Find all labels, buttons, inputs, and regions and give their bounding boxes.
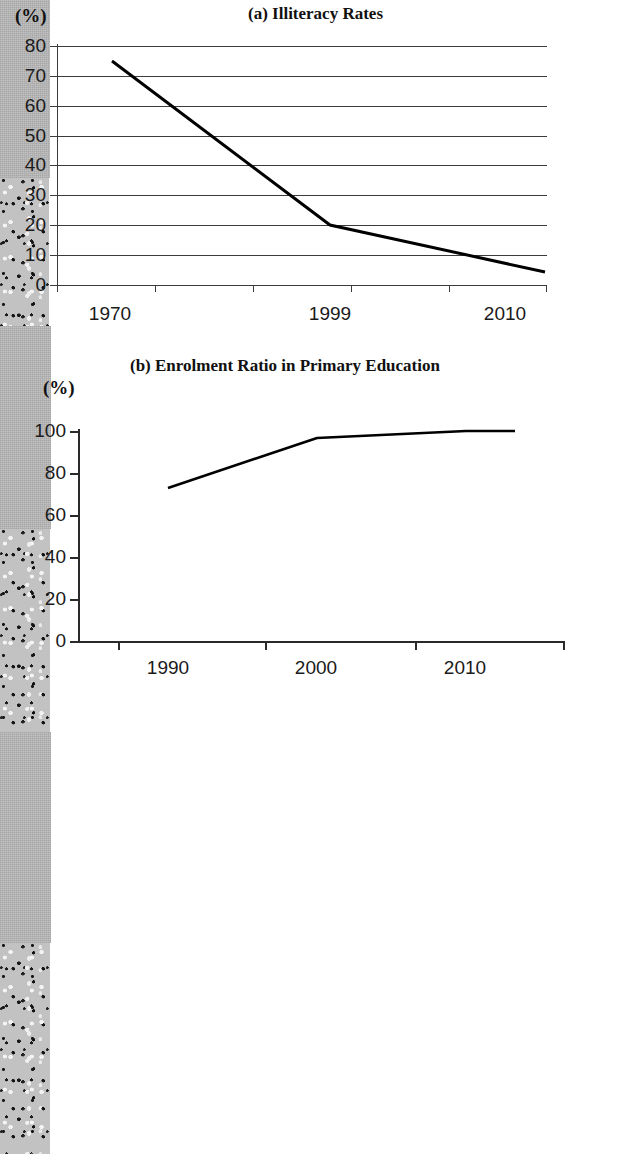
chart-b-x-tick-1990: 1990 — [128, 657, 208, 679]
bar-2010-series2 — [0, 943, 50, 1154]
bar-2010-series1 — [0, 732, 51, 943]
chart-b-x-tick-2010: 2010 — [425, 657, 505, 679]
chart-b-x-tick-2000: 2000 — [276, 657, 356, 679]
